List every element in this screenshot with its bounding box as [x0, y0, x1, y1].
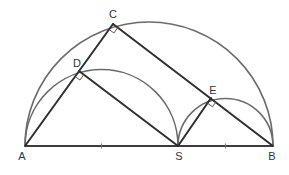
geometry-diagram: A B S C D E — [0, 0, 289, 175]
label-A: A — [18, 150, 26, 162]
segment-SE — [178, 98, 211, 146]
label-D: D — [73, 57, 81, 69]
label-E: E — [209, 84, 216, 96]
label-S: S — [175, 150, 182, 162]
semicircle-SB — [178, 99, 273, 146]
semicircle-AS — [25, 70, 178, 147]
label-B: B — [268, 150, 275, 162]
segment-AC — [25, 24, 113, 146]
diagram-canvas: A B S C D E — [0, 0, 289, 175]
segment-CB — [113, 24, 273, 146]
segment-DS — [79, 71, 178, 146]
semicircle-AB — [25, 22, 273, 146]
label-C: C — [109, 8, 117, 20]
